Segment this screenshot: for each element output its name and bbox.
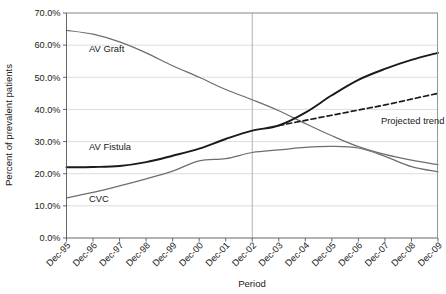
x-tick-label: Dec-05	[310, 240, 338, 268]
y-tick-label: 50.0%	[34, 73, 60, 83]
series-label: Projected trend	[381, 115, 445, 126]
x-tick-label: Dec-00	[177, 240, 205, 268]
x-tick-label: Dec-09	[416, 240, 444, 268]
series-label: CVC	[89, 193, 109, 204]
x-tick-label: Dec-02	[230, 240, 258, 268]
x-tick-label: Dec-04	[283, 240, 311, 268]
x-tick-label: Dec-99	[151, 240, 179, 268]
y-tick-label: 70.0%	[34, 8, 60, 18]
line-chart-figure: 0.0%10.0%20.0%30.0%40.0%50.0%60.0%70.0% …	[0, 0, 446, 294]
x-tick-label: Dec-97	[97, 240, 125, 268]
x-tick-label: Dec-95	[44, 240, 72, 268]
x-tick-label: Dec-06	[336, 240, 364, 268]
chart-container: 0.0%10.0%20.0%30.0%40.0%50.0%60.0%70.0% …	[0, 0, 446, 294]
y-tick-label: 40.0%	[34, 105, 60, 115]
x-tick-label: Dec-07	[363, 240, 391, 268]
x-tick-labels-group: Dec-95Dec-96Dec-97Dec-98Dec-99Dec-00Dec-…	[44, 240, 444, 268]
x-axis-title: Period	[238, 278, 266, 289]
x-tick-label: Dec-96	[71, 240, 99, 268]
series-label: AV Graft	[89, 43, 125, 54]
x-tick-label: Dec-01	[204, 240, 232, 268]
y-axis-title: Percent of prevalent patients	[3, 64, 14, 186]
y-tick-label: 0.0%	[40, 233, 61, 243]
y-tick-label: 30.0%	[34, 137, 60, 147]
x-tick-label: Dec-08	[389, 240, 417, 268]
x-tick-label: Dec-03	[257, 240, 285, 268]
y-tick-label: 20.0%	[34, 169, 60, 179]
y-tick-marks-group	[63, 13, 67, 238]
y-tick-labels-group: 0.0%10.0%20.0%30.0%40.0%50.0%60.0%70.0%	[34, 8, 60, 243]
x-tick-label: Dec-98	[124, 240, 152, 268]
series-label: AV Fistula	[89, 141, 132, 152]
y-tick-label: 10.0%	[34, 201, 60, 211]
y-tick-label: 60.0%	[34, 40, 60, 50]
